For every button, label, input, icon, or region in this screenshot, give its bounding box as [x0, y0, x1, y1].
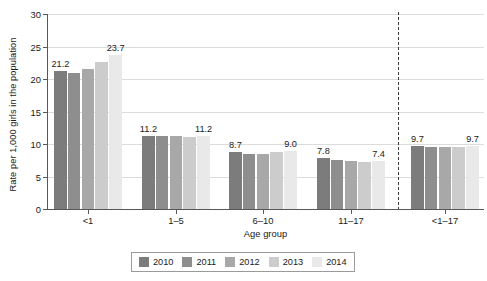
x-tick-label: 11–17	[338, 215, 363, 226]
bar[interactable]	[243, 154, 256, 209]
bar-group: 11.211.2	[142, 14, 210, 209]
bar[interactable]	[270, 152, 283, 209]
bar-value-label: 21.2	[51, 59, 69, 69]
legend-swatch-icon	[269, 257, 279, 267]
bar[interactable]	[345, 161, 358, 209]
legend-item[interactable]: 2011	[182, 257, 216, 267]
x-tick-label: <1	[83, 215, 94, 226]
bar[interactable]	[425, 147, 438, 209]
bar[interactable]	[358, 162, 371, 209]
bar-chart-figure: Rate per 1,000 girls in the population 0…	[0, 0, 487, 281]
bar-value-label: 9.7	[411, 134, 424, 144]
legend-label: 2011	[196, 257, 216, 267]
bar-value-label: 23.7	[107, 43, 125, 53]
bar[interactable]	[452, 147, 465, 209]
bar[interactable]	[68, 73, 81, 209]
legend-item[interactable]: 2014	[312, 257, 346, 267]
bar[interactable]	[411, 146, 424, 209]
group-divider-line	[398, 12, 399, 210]
x-axis-line	[47, 209, 484, 210]
bar[interactable]	[331, 160, 344, 209]
y-tick-label: 20	[31, 74, 41, 85]
legend-swatch-icon	[182, 257, 192, 267]
bar[interactable]	[142, 136, 155, 209]
x-tick-mark	[263, 210, 264, 214]
bar[interactable]	[229, 152, 242, 209]
bar[interactable]	[183, 137, 196, 209]
x-tick-mark	[445, 210, 446, 214]
bar-value-label: 11.2	[140, 124, 157, 134]
legend-label: 2012	[239, 257, 259, 267]
y-axis-line	[47, 14, 48, 210]
bar[interactable]	[439, 147, 452, 209]
legend-item[interactable]: 2010	[139, 257, 173, 267]
bar-group: 21.223.7	[54, 14, 122, 209]
y-tick-label: 15	[31, 106, 41, 117]
bar[interactable]	[82, 69, 95, 209]
bar-group: 7.87.4	[317, 14, 385, 209]
x-tick-mark	[88, 210, 89, 214]
y-tick-label: 30	[31, 9, 41, 20]
bar-value-label: 9.7	[466, 134, 479, 144]
x-tick-label: <1–17	[432, 215, 458, 226]
y-tick-label: 10	[31, 139, 41, 150]
x-axis-title: Age group	[47, 228, 484, 239]
bar-value-label: 7.8	[317, 146, 330, 156]
y-axis-title: Rate per 1,000 girls in the population	[4, 7, 22, 222]
x-tick-label: 1–5	[168, 215, 184, 226]
bar-value-label: 8.7	[229, 140, 242, 150]
bar[interactable]	[284, 151, 297, 210]
bar-group: 8.79.0	[229, 14, 297, 209]
plot-area: 05101520253021.223.7<111.211.21–58.79.06…	[47, 14, 484, 210]
legend-swatch-icon	[225, 257, 235, 267]
y-tick-label: 0	[36, 204, 41, 215]
legend-item[interactable]: 2013	[269, 257, 303, 267]
plot-inner: 05101520253021.223.7<111.211.21–58.79.06…	[47, 14, 484, 210]
x-tick-mark	[351, 210, 352, 214]
bar-value-label: 7.4	[372, 149, 385, 159]
bar-value-label: 9.0	[284, 139, 297, 149]
bar[interactable]	[170, 136, 183, 209]
legend-item[interactable]: 2012	[225, 257, 259, 267]
x-tick-mark	[176, 210, 177, 214]
x-tick-label: 6–10	[253, 215, 274, 226]
bar[interactable]	[317, 158, 330, 209]
bar[interactable]	[197, 136, 210, 209]
legend-label: 2013	[283, 257, 303, 267]
legend: 20102011201220132014	[131, 252, 355, 272]
legend-swatch-icon	[312, 257, 322, 267]
legend-swatch-icon	[139, 257, 149, 267]
bar[interactable]	[466, 146, 479, 209]
y-tick-label: 5	[36, 171, 41, 182]
bar[interactable]	[156, 136, 169, 209]
bar[interactable]	[257, 154, 270, 209]
legend-label: 2014	[326, 257, 346, 267]
bar[interactable]	[109, 55, 122, 209]
bar[interactable]	[372, 161, 385, 209]
bar-group: 9.79.7	[411, 14, 479, 209]
legend-label: 2010	[153, 257, 173, 267]
bar[interactable]	[95, 62, 108, 209]
bar-value-label: 11.2	[195, 124, 212, 134]
y-tick-label: 25	[31, 41, 41, 52]
bar[interactable]	[54, 71, 67, 209]
